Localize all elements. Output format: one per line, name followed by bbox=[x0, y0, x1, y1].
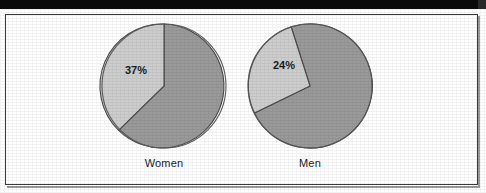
frame-shadow-bottom bbox=[7, 186, 480, 188]
charts-area: 37% Women 24% Men bbox=[6, 15, 479, 186]
pie-chart-men: 24% Men bbox=[240, 15, 380, 186]
pie-women-value-label: 37% bbox=[125, 64, 147, 76]
pie-men-value-label: 24% bbox=[273, 59, 295, 71]
figure-frame: 37% Women 24% Men bbox=[5, 14, 478, 185]
pie-men-caption: Men bbox=[240, 157, 380, 169]
figure-screenshot: 37% Women 24% Men bbox=[0, 0, 486, 193]
page-edge-bar-nick bbox=[478, 0, 486, 9]
pie-women-caption: Women bbox=[94, 157, 234, 169]
page-edge-bar bbox=[0, 0, 486, 9]
pie-men-svg: 24% bbox=[240, 21, 380, 151]
pie-women-svg: 37% bbox=[94, 21, 234, 151]
pie-chart-women: 37% Women bbox=[94, 15, 234, 186]
